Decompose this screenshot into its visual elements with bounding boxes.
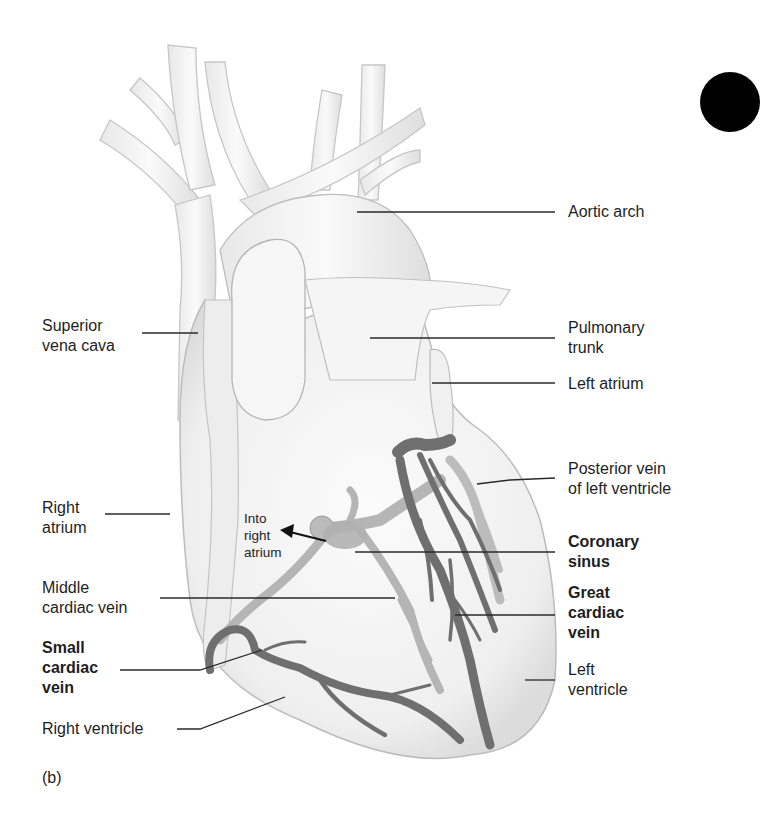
label-middle-cardiac-vein: Middle cardiac vein [42,578,127,618]
label-coronary-sinus: Coronary sinus [568,532,639,572]
label-posterior-vein: Posterior vein of left ventricle [568,459,671,499]
label-into-right-atrium: Into right atrium [244,510,282,561]
label-pulmonary-trunk: Pulmonary trunk [568,318,644,358]
label-superior-vena-cava: Superior vena cava [42,316,115,356]
label-aortic-arch: Aortic arch [568,202,644,222]
label-left-atrium: Left atrium [568,374,644,394]
label-right-atrium: Right atrium [42,498,86,538]
corner-marker [700,72,760,132]
label-right-ventricle: Right ventricle [42,719,143,739]
label-great-cardiac-vein: Great cardiac vein [568,583,624,643]
panel-label: (b) [42,768,62,788]
label-left-ventricle: Left ventricle [568,660,628,700]
label-small-cardiac-vein: Small cardiac vein [42,638,98,698]
